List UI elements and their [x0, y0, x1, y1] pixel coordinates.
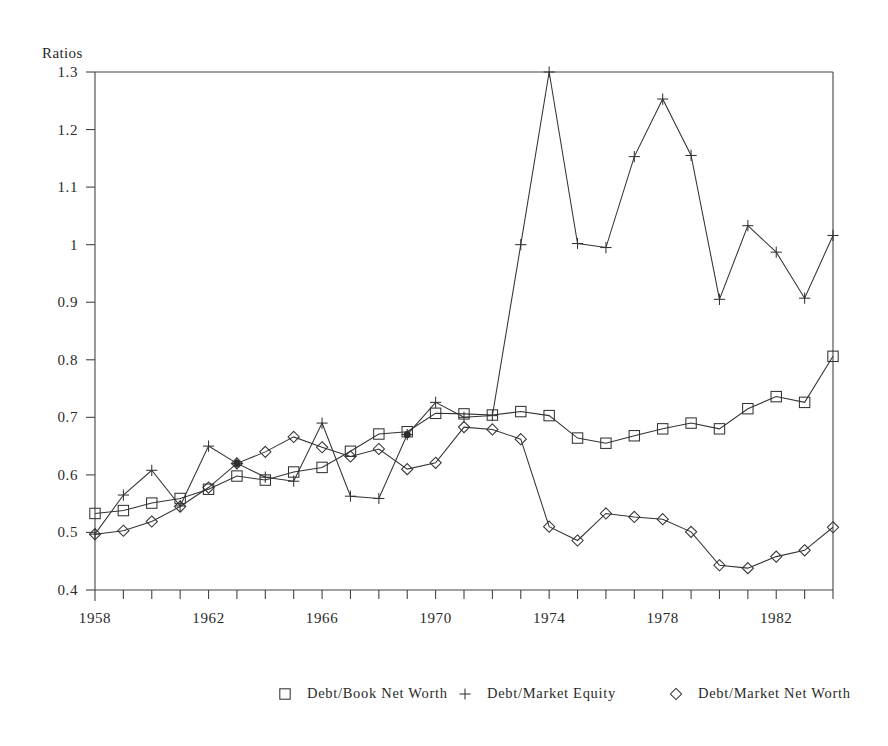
line-chart: Ratios 1.31.21.110.90.80.70.60.50.4 1958… — [0, 0, 888, 746]
legend-item-diamond[interactable]: Debt/Market Net Worth — [670, 685, 850, 701]
y-tick-label: 1 — [70, 237, 78, 253]
legend-label: Debt/Market Equity — [487, 685, 616, 701]
y-tick-label: 1.1 — [57, 179, 78, 195]
chart-figure: Ratios 1.31.21.110.90.80.70.60.50.4 1958… — [0, 0, 888, 746]
y-axis-title: Ratios — [42, 45, 83, 61]
y-tick-label: 0.8 — [57, 352, 78, 368]
x-tick-label: 1970 — [419, 610, 451, 626]
y-tick-label: 1.2 — [57, 122, 78, 138]
y-tick-label: 0.4 — [57, 582, 78, 598]
x-tick-label: 1974 — [533, 610, 565, 626]
y-tick-label: 0.6 — [57, 467, 78, 483]
x-tick-label: 1978 — [646, 610, 678, 626]
legend-label: Debt/Book Net Worth — [307, 685, 448, 701]
x-tick-label: 1966 — [306, 610, 338, 626]
x-tick-label: 1962 — [192, 610, 224, 626]
legend-label: Debt/Market Net Worth — [698, 685, 851, 701]
y-tick-label: 1.3 — [57, 64, 78, 80]
chart-background — [0, 0, 888, 746]
x-tick-label: 1982 — [760, 610, 792, 626]
y-tick-label: 0.7 — [57, 409, 78, 425]
chart-legend: Debt/Book Net WorthDebt/Market EquityDeb… — [280, 685, 851, 701]
y-tick-label: 0.5 — [57, 524, 78, 540]
x-tick-label: 1958 — [79, 610, 111, 626]
y-tick-label: 0.9 — [57, 294, 78, 310]
